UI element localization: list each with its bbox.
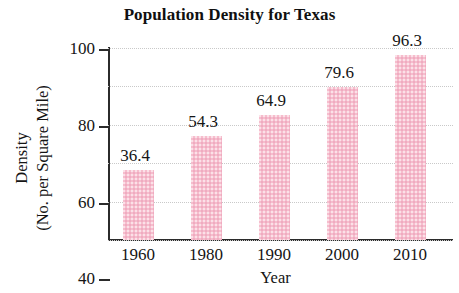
bar-value-label: 64.9 [256,91,286,111]
x-axis-tick-label: 2010 [393,245,427,265]
y-axis-tick-mark [99,126,110,128]
bar [327,87,358,240]
y-axis-tick-mark [99,49,110,51]
x-axis-title: Year [0,268,459,288]
x-axis-tick-label: 1990 [257,245,291,265]
y-axis-tick-label: 100 [70,39,96,59]
gridline: 0 [108,240,453,241]
bar [123,170,154,240]
x-axis-tick-label: 1960 [121,245,155,265]
x-axis-tick-label: 1980 [189,245,223,265]
chart-title: Population Density for Texas [0,5,459,25]
bar-value-label: 54.3 [188,112,218,132]
bar [191,136,222,240]
bar-value-label: 36.4 [120,146,150,166]
y-axis-title-line-1: Density [11,53,32,263]
x-axis-tick-label: 2000 [325,245,359,265]
bar-value-label: 79.6 [324,63,354,83]
bar-value-label: 96.3 [392,31,422,51]
bar [395,55,426,240]
y-axis-tick-mark [99,203,110,205]
y-axis-tick-label: 80 [78,115,95,135]
x-axis-title-text: Year [260,268,290,287]
chart-figure: Population Density for Texas Density (No… [0,0,459,293]
plot-area: 020406080100 36.454.364.979.696.3 [108,48,453,240]
y-axis-title-line-2: (No. per Square Mile) [32,53,53,263]
bar [259,115,290,240]
y-axis-tick-label: 60 [78,192,95,212]
y-axis-title: Density (No. per Square Mile) [11,53,55,263]
